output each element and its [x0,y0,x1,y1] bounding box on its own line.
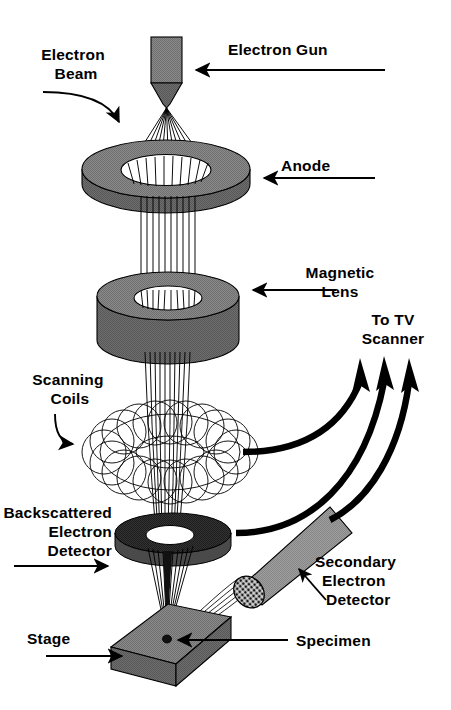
label-electron-beam: Electron Beam [41,46,119,122]
electron-gun-assembly [151,37,182,108]
signal-arrow-from-secondary [330,382,409,520]
magnetic-lens-bore [134,286,202,310]
signal-arrows-to-tv-scanner [236,382,409,533]
backscattered-label-line1: Backscattered [3,504,112,521]
magnetic-lens-label-line2: Lens [322,283,359,300]
label-backscattered-detector: Backscattered Electron Detector [3,504,112,566]
to-tv-scanner-label-line1: To TV [372,311,415,328]
magnetic-lens-label-line1: Magnetic [306,264,375,281]
signal-arrow-from-coils [243,382,360,452]
stage-label: Stage [27,630,70,647]
label-stage: Stage [27,630,122,656]
anode-label: Anode [281,157,330,174]
label-to-tv-scanner: To TV Scanner [362,311,425,347]
magnetic-lens-cylinder [97,272,239,364]
secondary-label-line3: Detector [326,591,390,608]
label-anode: Anode [264,157,375,178]
specimen-dot [163,635,172,643]
electron-gun-body [151,37,182,83]
electron-beam-leader [43,92,119,122]
specimen-label: Specimen [296,632,371,649]
secondary-label-line2: Electron [322,572,386,589]
electron-beam-label-line2: Beam [54,65,97,82]
bsd-aperture [146,526,194,545]
anode-disc [82,140,250,213]
secondary-label-line1: Secondary [315,553,396,570]
sem-diagram-svg: Electron Beam Electron Gun Anode Magneti… [0,0,451,710]
beam-rays-in-coils [148,424,187,484]
scanning-coils-leader [55,414,73,444]
backscattered-label-line3: Detector [48,542,112,559]
backscatter-detector-disc [115,513,231,566]
electron-gun-label: Electron Gun [228,41,328,58]
label-magnetic-lens: Magnetic Lens [253,264,375,300]
to-tv-scanner-label-line2: Scanner [362,330,425,347]
electron-gun-cone [151,83,182,108]
sem-diagram-canvas: Electron Beam Electron Gun Anode Magneti… [0,0,451,710]
scanning-coils-label-line2: Coils [51,390,90,407]
signal-arrow-from-bsd [236,382,384,533]
scanning-coils-label-line1: Scanning [32,371,103,388]
electron-beam-label-line1: Electron [41,46,105,63]
backscattered-label-line2: Electron [48,523,112,540]
label-electron-gun: Electron Gun [196,41,385,70]
specimen-stage [111,604,231,686]
